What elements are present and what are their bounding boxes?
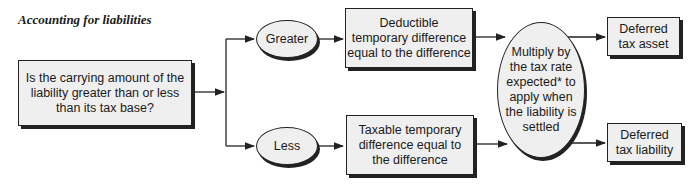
less-label: Less bbox=[274, 139, 300, 154]
multiply-text: Multiply by the tax rate expected* to ap… bbox=[506, 45, 577, 135]
less-ellipse: Less bbox=[256, 127, 318, 165]
deferred-tax-liability-box: Deferred tax liability bbox=[607, 123, 682, 162]
taxable-box: Taxable temporary difference equal to th… bbox=[346, 115, 474, 175]
deferred-tax-asset-text: Deferred tax asset bbox=[618, 22, 668, 52]
deductible-box: Deductible temporary difference equal to… bbox=[345, 8, 473, 68]
greater-label: Greater bbox=[266, 32, 308, 47]
deferred-tax-liability-text: Deferred tax liability bbox=[616, 128, 674, 158]
greater-ellipse: Greater bbox=[256, 20, 318, 58]
question-text: Is the carrying amount of the liability … bbox=[26, 71, 184, 116]
deductible-text: Deductible temporary difference equal to… bbox=[347, 16, 470, 61]
deferred-tax-asset-box: Deferred tax asset bbox=[607, 17, 680, 56]
multiply-ellipse: Multiply by the tax rate expected* to ap… bbox=[497, 22, 585, 158]
question-box: Is the carrying amount of the liability … bbox=[18, 60, 192, 126]
taxable-text: Taxable temporary difference equal to th… bbox=[359, 123, 462, 168]
